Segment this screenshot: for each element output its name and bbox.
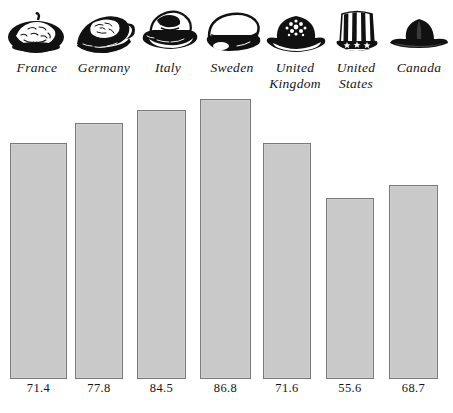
- bar-canada: [389, 185, 438, 379]
- fedora-hat-icon: [132, 0, 204, 58]
- category-label-sweden: Sweden: [196, 60, 268, 76]
- value-label-row: 71.4 77.8 84.5 86.8 71.6 55.6 68.7: [0, 380, 453, 404]
- bar-italy: [137, 110, 186, 379]
- category-label-canada: Canada: [386, 60, 452, 76]
- uncle-sam-top-hat-icon: [324, 0, 390, 58]
- value-label-united-states: 55.6: [326, 380, 374, 396]
- bar-france: [10, 143, 67, 379]
- bar-sweden: [200, 99, 251, 379]
- value-label-united-kingdom: 71.6: [263, 380, 311, 396]
- beret-hat-icon: [2, 0, 72, 58]
- category-label-france: France: [2, 60, 72, 76]
- value-label-germany: 77.8: [75, 380, 123, 396]
- value-label-france: 71.4: [10, 380, 67, 396]
- bowler-hat-icon: [260, 0, 332, 58]
- value-label-italy: 84.5: [137, 380, 186, 396]
- category-label-united-states: United States: [328, 60, 384, 92]
- value-label-canada: 68.7: [389, 380, 438, 396]
- bar-united-kingdom: [263, 143, 311, 379]
- bar-chart: France Germany Italy Sweden United Kingd…: [0, 0, 453, 413]
- bar-germany: [75, 123, 123, 379]
- category-label-united-kingdom: United Kingdom: [264, 60, 326, 92]
- german-cap-hat-icon: [66, 0, 142, 58]
- plot-area: [0, 96, 453, 379]
- category-label-germany: Germany: [66, 60, 142, 76]
- bar-united-states: [326, 198, 374, 379]
- swedish-cap-hat-icon: [196, 0, 268, 58]
- value-label-sweden: 86.8: [200, 380, 251, 396]
- category-label-row: France Germany Italy Sweden United Kingd…: [0, 60, 453, 96]
- icon-row: [0, 0, 453, 58]
- category-label-italy: Italy: [132, 60, 204, 76]
- mountie-hat-icon: [386, 0, 452, 58]
